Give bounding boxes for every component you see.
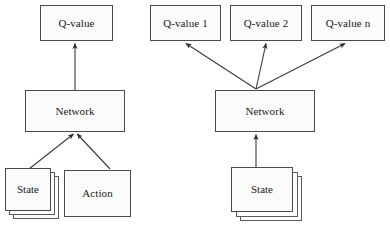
node-label: Q-value: [58, 18, 94, 29]
edge-left-state-to-network: [29, 134, 73, 169]
node-label: Q-value 1: [163, 18, 208, 29]
edge-right-network-to-qvalue-n: [256, 44, 345, 90]
node-label: Q-value n: [326, 18, 371, 29]
edge-left-action-to-network: [77, 134, 110, 169]
node-qvalue-1[interactable]: Q-value 1: [150, 5, 221, 41]
node-label: Network: [55, 106, 94, 117]
node-state-right-stack[interactable]: State: [231, 167, 303, 222]
node-label: Action: [82, 188, 113, 199]
node-qvalue-n[interactable]: Q-value n: [311, 5, 385, 41]
node-qvalue-2[interactable]: Q-value 2: [230, 5, 302, 41]
edge-right-network-to-qvalue-2: [256, 44, 266, 90]
edge-right-network-to-qvalue-1: [186, 44, 256, 90]
node-label: Q-value 2: [244, 18, 289, 29]
node-label: Network: [245, 106, 284, 117]
node-action-left[interactable]: Action: [64, 170, 131, 217]
node-network-left[interactable]: Network: [25, 90, 125, 132]
node-label: State: [17, 184, 39, 195]
node-label: State: [251, 184, 273, 195]
diagram-canvas: Q-value Network State Action Q-value 1 Q…: [0, 0, 390, 234]
node-state-left-stack[interactable]: State: [5, 168, 60, 220]
node-network-right[interactable]: Network: [215, 90, 315, 132]
node-qvalue-single[interactable]: Q-value: [40, 5, 113, 41]
node-state-right[interactable]: State: [231, 167, 293, 212]
node-state-left[interactable]: State: [5, 168, 51, 211]
